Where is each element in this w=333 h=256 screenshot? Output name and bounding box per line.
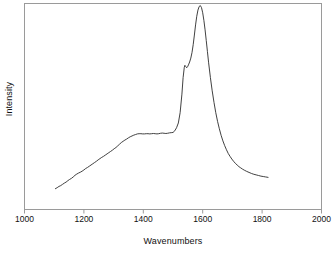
x-tick-label-1600: 1600 <box>193 214 212 224</box>
x-tick-label-1800: 1800 <box>253 214 272 224</box>
spectrum-line <box>55 6 268 189</box>
plot-area <box>0 0 333 256</box>
x-tick-label-2000: 2000 <box>312 214 331 224</box>
x-axis-ticks <box>25 210 322 214</box>
x-tick-label-1400: 1400 <box>134 214 153 224</box>
series-spectrum <box>55 6 268 189</box>
x-tick-label-1000: 1000 <box>15 214 34 224</box>
plot-frame <box>25 4 322 210</box>
spectrum-figure: Intensity Wavenumbers 100012001400160018… <box>0 0 333 256</box>
x-tick-label-1200: 1200 <box>74 214 93 224</box>
